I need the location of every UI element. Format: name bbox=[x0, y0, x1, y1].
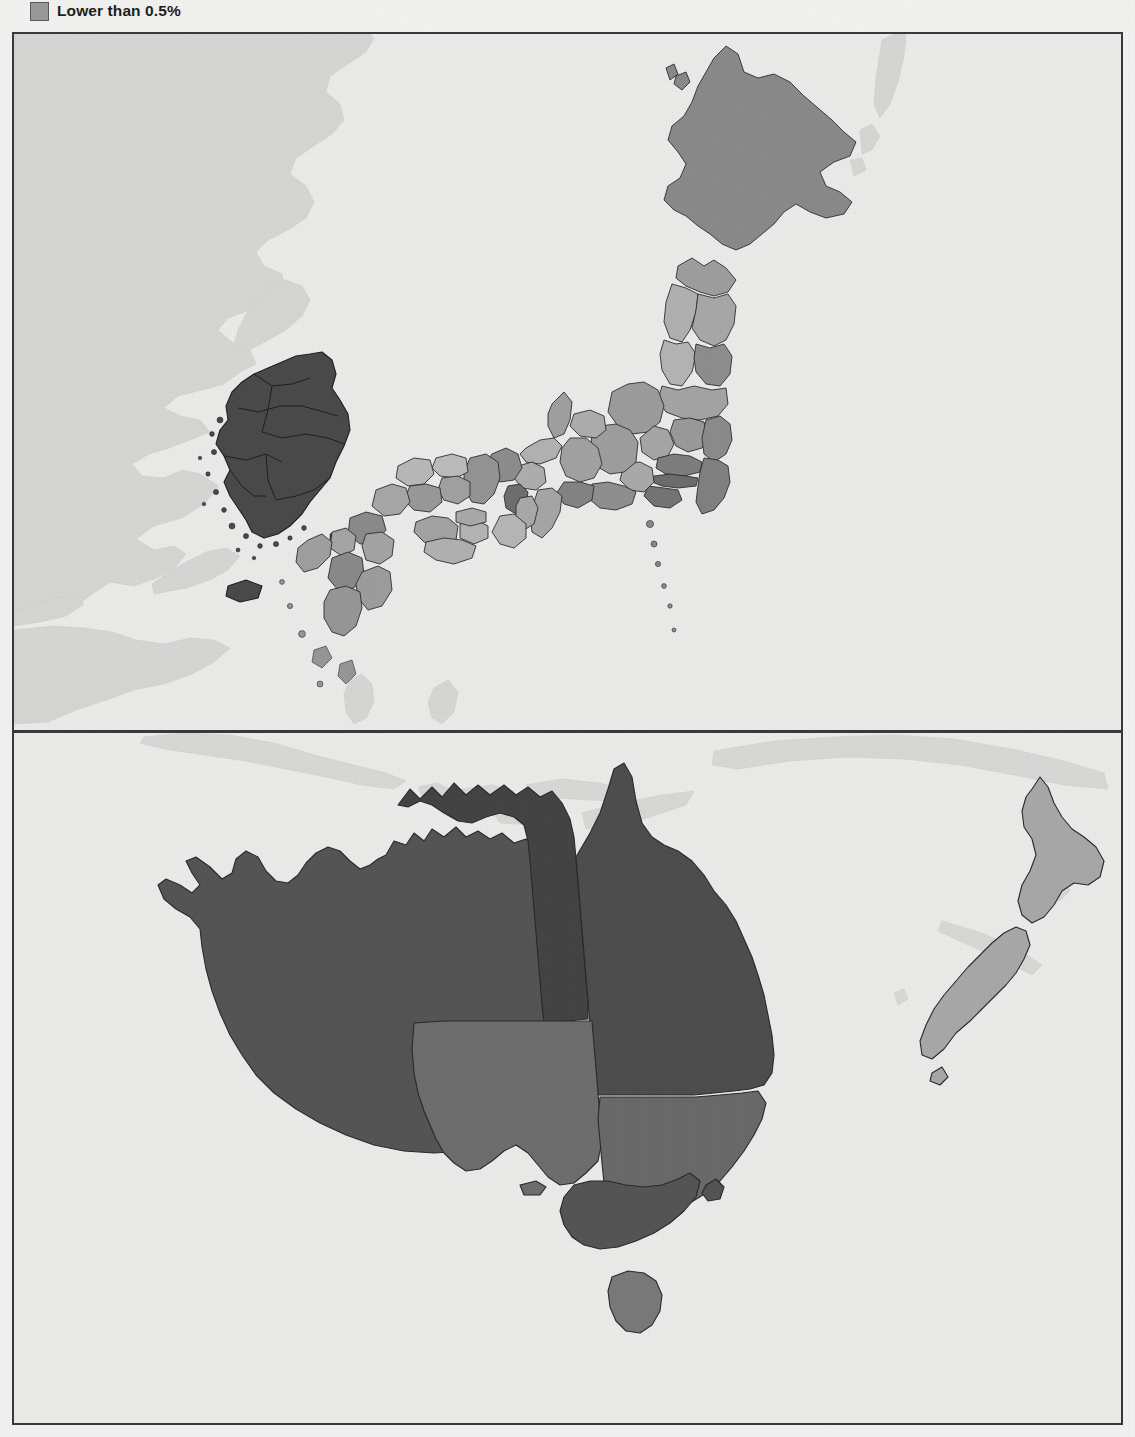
legend-label: Lower than 0.5% bbox=[57, 2, 181, 20]
region-kagawa bbox=[456, 508, 486, 526]
east-asia-map-svg: .ctx{fill:#d6d6d4;stroke:#cfcfcd;stroke-… bbox=[14, 34, 1121, 730]
oceania-map-svg: .ctx2{fill:#d8d8d6;stroke:#d0d0ce;stroke… bbox=[14, 733, 1121, 1423]
legend-square-icon bbox=[30, 2, 49, 21]
map-panel-oceania: .ctx2{fill:#d8d8d6;stroke:#d0d0ce;stroke… bbox=[12, 731, 1123, 1425]
legend: Lower than 0.5% bbox=[30, 0, 181, 26]
map-panel-east-asia: .ctx{fill:#d6d6d4;stroke:#cfcfcd;stroke-… bbox=[12, 32, 1123, 732]
map-figure: Lower than 0.5% .ctx{fill:#d6d6d4;stroke… bbox=[0, 0, 1135, 1437]
